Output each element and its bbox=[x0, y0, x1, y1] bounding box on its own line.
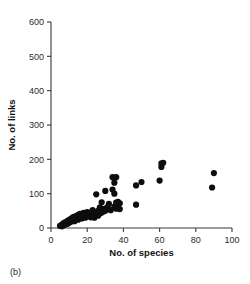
y-axis-tick-labels: 0100200300400500600 bbox=[29, 17, 44, 233]
figure-panel: 0100200300400500600 020406080100 No. of … bbox=[0, 0, 250, 284]
data-point bbox=[160, 160, 166, 166]
y-tick-label-500: 500 bbox=[29, 52, 44, 62]
data-point bbox=[211, 170, 217, 176]
y-axis-title: No. of links bbox=[6, 99, 17, 150]
x-tick-label-40: 40 bbox=[118, 235, 128, 245]
y-tick-label-600: 600 bbox=[29, 17, 44, 27]
y-tick-label-400: 400 bbox=[29, 86, 44, 96]
data-point bbox=[209, 184, 215, 190]
y-tick-label-200: 200 bbox=[29, 155, 44, 165]
data-point bbox=[102, 188, 108, 194]
panel-label: (b) bbox=[10, 267, 21, 277]
data-point bbox=[133, 182, 139, 188]
data-point bbox=[106, 201, 112, 207]
data-point bbox=[117, 200, 123, 206]
data-point bbox=[157, 178, 163, 184]
x-tick-label-20: 20 bbox=[82, 235, 92, 245]
x-tick-label-0: 0 bbox=[48, 235, 53, 245]
data-point bbox=[133, 202, 139, 208]
data-points-layer bbox=[57, 160, 217, 230]
data-point bbox=[138, 179, 144, 185]
x-tick-label-80: 80 bbox=[191, 235, 201, 245]
y-tick-label-0: 0 bbox=[39, 223, 44, 233]
y-axis-ticks bbox=[47, 22, 51, 228]
y-tick-label-300: 300 bbox=[29, 120, 44, 130]
scatter-plot: 0100200300400500600 020406080100 No. of … bbox=[0, 0, 250, 284]
data-point bbox=[117, 206, 123, 212]
data-point bbox=[113, 174, 119, 180]
data-point bbox=[99, 199, 105, 205]
data-point bbox=[93, 191, 99, 197]
x-tick-label-60: 60 bbox=[155, 235, 165, 245]
data-point bbox=[111, 180, 117, 186]
x-tick-label-100: 100 bbox=[224, 235, 239, 245]
data-point bbox=[111, 191, 117, 197]
x-axis-title: No. of species bbox=[109, 247, 173, 258]
y-tick-label-100: 100 bbox=[29, 189, 44, 199]
x-axis-ticks bbox=[51, 228, 232, 232]
x-axis-tick-labels: 020406080100 bbox=[48, 235, 239, 245]
